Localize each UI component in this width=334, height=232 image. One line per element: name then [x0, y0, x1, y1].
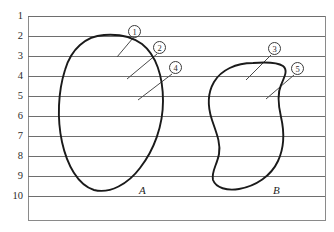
figure-canvas: 12345678910 AB 12435	[0, 0, 334, 232]
leader-line-1	[117, 38, 133, 57]
shape-outline-a	[59, 35, 163, 191]
shape-letter-label-b: B	[273, 184, 280, 196]
callout-marker-4: 4	[169, 61, 182, 74]
row-number-label: 7	[3, 130, 23, 141]
callout-marker-1: 1	[128, 25, 141, 38]
row-number-label: 5	[3, 90, 23, 101]
row-number-label: 4	[3, 70, 23, 81]
row-number-label: 9	[3, 170, 23, 181]
callout-marker-5: 5	[291, 62, 304, 75]
row-number-label: 2	[3, 30, 23, 41]
callout-marker-2: 2	[153, 41, 166, 54]
row-number-label: 1	[3, 10, 23, 21]
diagram-svg	[0, 0, 334, 232]
row-number-label: 10	[3, 190, 23, 201]
shape-outlines-group	[59, 35, 286, 191]
row-number-label: 8	[3, 150, 23, 161]
row-number-label: 3	[3, 50, 23, 61]
shape-letter-label-a: A	[139, 184, 146, 196]
callout-marker-3: 3	[268, 42, 281, 55]
shape-outline-b	[209, 62, 286, 189]
row-number-label: 6	[3, 110, 23, 121]
